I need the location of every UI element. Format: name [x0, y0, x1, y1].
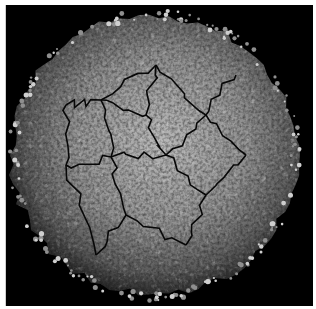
rim-bead — [133, 19, 135, 21]
rim-bead — [285, 94, 287, 96]
rim-bead — [277, 90, 279, 92]
rim-bead — [63, 258, 68, 263]
rim-bead — [281, 201, 286, 206]
rim-bead — [260, 250, 263, 253]
rim-bead — [290, 154, 293, 157]
rim-bead — [273, 75, 276, 78]
rim-bead — [29, 85, 32, 88]
rim-bead — [30, 76, 32, 78]
rim-bead — [53, 259, 57, 263]
rim-bead — [56, 48, 58, 50]
rim-bead — [119, 11, 124, 16]
rim-bead — [238, 262, 242, 266]
rim-bead — [292, 133, 296, 137]
rim-bead — [25, 224, 29, 228]
rim-bead — [290, 164, 293, 167]
rim-bead — [285, 109, 289, 113]
rim-bead — [166, 9, 170, 13]
rim-bead — [128, 294, 132, 298]
rim-bead — [119, 291, 124, 296]
rim-bead — [90, 275, 93, 278]
rim-bead — [263, 238, 268, 243]
rim-bead — [191, 284, 196, 289]
rim-bead — [35, 77, 39, 81]
rim-bead — [271, 227, 273, 229]
rim-bead — [206, 24, 208, 26]
rim-bead — [19, 194, 22, 197]
rim-bead — [39, 231, 44, 236]
rim-bead — [92, 278, 97, 283]
rim-bead — [154, 291, 158, 295]
rim-bead — [163, 17, 167, 21]
rim-bead — [298, 147, 302, 151]
rim-bead — [35, 239, 38, 242]
rim-bead — [18, 177, 21, 180]
rim-bead — [90, 25, 94, 29]
rim-bead — [248, 256, 252, 260]
rim-bead — [47, 53, 52, 58]
rim-bead — [69, 272, 72, 275]
image-frame — [5, 5, 313, 306]
rim-bead — [45, 250, 49, 254]
rim-bead — [11, 186, 14, 189]
rim-bead — [185, 19, 188, 22]
rim-bead — [70, 269, 73, 272]
rim-bead — [213, 277, 215, 279]
rim-bead — [78, 275, 81, 278]
rim-bead — [197, 18, 200, 21]
rim-bead — [158, 292, 162, 296]
rim-bead — [246, 262, 250, 266]
rim-bead — [157, 11, 161, 15]
rim-bead — [147, 298, 151, 302]
rim-bead — [93, 285, 98, 290]
rim-bead — [106, 21, 111, 26]
rim-bead — [29, 89, 32, 92]
rim-bead — [284, 101, 286, 103]
rim-bead — [29, 80, 33, 84]
rim-bead — [232, 36, 236, 40]
rim-bead — [206, 279, 211, 284]
rim-bead — [71, 41, 74, 44]
rim-bead — [256, 63, 259, 66]
rim-bead — [252, 47, 257, 52]
rim-bead — [53, 52, 55, 54]
rim-bead — [12, 158, 17, 163]
rim-bead — [174, 293, 178, 297]
rim-bead — [28, 93, 32, 97]
rim-bead — [177, 11, 180, 14]
rim-bead — [186, 288, 190, 292]
rim-bead — [208, 28, 213, 33]
rim-bead — [8, 149, 12, 153]
rim-bead — [21, 103, 26, 108]
rim-bead — [245, 42, 249, 46]
rim-bead — [237, 35, 240, 38]
rim-bead — [214, 280, 217, 283]
rim-bead — [212, 25, 214, 27]
rim-bead — [19, 198, 24, 203]
rim-bead — [281, 223, 284, 226]
rim-bead — [259, 244, 263, 248]
rim-bead — [14, 149, 18, 153]
rim-bead — [292, 145, 294, 147]
rim-bead — [18, 131, 22, 135]
rim-bead — [295, 135, 298, 138]
rim-bead — [16, 121, 20, 125]
rim-bead — [297, 163, 302, 168]
rim-bead — [188, 14, 191, 17]
rim-bead — [297, 133, 300, 136]
rim-bead — [156, 18, 158, 20]
rim-bead — [229, 30, 233, 34]
rim-bead — [177, 18, 180, 21]
particle-image — [6, 5, 313, 306]
rim-bead — [229, 277, 232, 280]
rim-bead — [275, 81, 280, 86]
rim-bead — [81, 278, 85, 282]
rim-bead — [157, 299, 159, 301]
rim-bead — [273, 86, 278, 91]
rim-bead — [115, 17, 119, 21]
rim-bead — [223, 27, 228, 32]
rim-bead — [56, 52, 59, 55]
rim-bead — [288, 193, 293, 198]
rim-bead — [240, 46, 242, 48]
rim-bead — [19, 99, 24, 104]
